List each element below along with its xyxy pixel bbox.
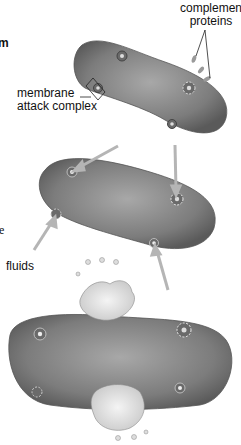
complement-proteins-label: complement proteins <box>180 2 241 28</box>
cell-3 <box>9 258 232 441</box>
mac-label: membrane attack complex <box>17 87 97 113</box>
cropped-label-fragment: m <box>0 37 9 50</box>
cell-2 <box>34 145 215 290</box>
fluids-label: fluids <box>6 260 34 273</box>
cropped-label-fragment: e <box>0 224 4 237</box>
cell-1 <box>74 30 227 133</box>
diagram: complement proteins m membrane attack co… <box>0 0 241 445</box>
label-line: attack complex <box>17 100 97 113</box>
illustration <box>0 0 241 445</box>
label-line: proteins <box>180 15 241 28</box>
